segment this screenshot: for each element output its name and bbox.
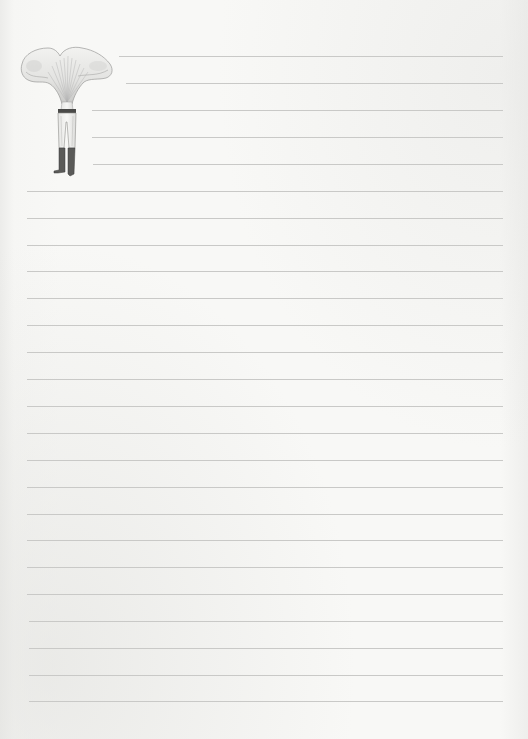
writing-line <box>27 298 503 299</box>
mushroom-figure-illustration <box>18 42 116 180</box>
writing-line <box>29 648 503 649</box>
writing-line <box>27 218 503 219</box>
trousers <box>58 113 76 148</box>
writing-line <box>27 406 503 407</box>
writing-line <box>27 352 503 353</box>
writing-line <box>119 56 503 57</box>
boots <box>54 148 75 176</box>
writing-line <box>27 594 503 595</box>
belt <box>58 109 76 113</box>
mushroom-cap <box>21 47 112 104</box>
writing-line <box>92 137 503 138</box>
notepaper <box>0 0 528 739</box>
writing-line <box>27 325 503 326</box>
writing-line <box>27 433 503 434</box>
writing-line <box>27 540 503 541</box>
writing-line <box>27 271 503 272</box>
writing-line <box>126 83 503 84</box>
writing-line <box>27 567 503 568</box>
writing-line <box>27 460 503 461</box>
writing-line <box>27 245 503 246</box>
writing-line <box>93 164 503 165</box>
writing-line <box>27 487 503 488</box>
writing-line <box>27 191 503 192</box>
writing-line <box>29 675 503 676</box>
writing-line <box>92 110 503 111</box>
writing-line <box>27 514 503 515</box>
mushroom-stem <box>61 102 73 110</box>
writing-line <box>27 379 503 380</box>
writing-line <box>29 701 503 702</box>
writing-line <box>29 621 503 622</box>
